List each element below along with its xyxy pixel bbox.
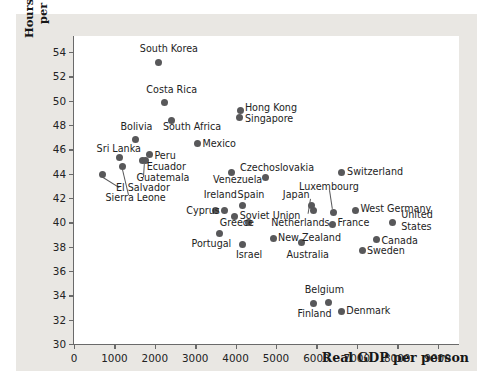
point-label: Hong Kong bbox=[245, 103, 297, 113]
x-tick bbox=[155, 344, 156, 349]
scatter-plot-area: 30323436384042444648505254 0100020003000… bbox=[73, 36, 459, 345]
data-point bbox=[221, 207, 228, 214]
data-point bbox=[155, 59, 162, 66]
data-point bbox=[132, 136, 139, 143]
point-label: Canada bbox=[381, 236, 418, 246]
point-label: Finland bbox=[297, 309, 331, 319]
y-tick bbox=[69, 222, 74, 223]
data-point bbox=[330, 209, 337, 216]
point-label: New Zealand bbox=[278, 233, 341, 243]
y-tick-label: 42 bbox=[53, 192, 66, 204]
x-tick bbox=[276, 344, 277, 349]
data-point bbox=[194, 140, 201, 147]
point-label: Singapore bbox=[245, 114, 293, 124]
y-tick-label: 40 bbox=[53, 216, 66, 228]
point-label: Peru bbox=[154, 151, 175, 161]
y-tick bbox=[69, 198, 74, 199]
point-label: Sri Lanka bbox=[97, 144, 141, 154]
point-label: Bolivia bbox=[120, 122, 152, 132]
point-label: Denmark bbox=[346, 306, 390, 316]
point-label: Australia bbox=[286, 250, 328, 260]
y-tick bbox=[69, 125, 74, 126]
x-tick bbox=[438, 344, 439, 349]
data-point bbox=[236, 114, 243, 121]
point-label: Portugal bbox=[192, 239, 232, 249]
y-tick bbox=[69, 174, 74, 175]
point-label: Ecuador bbox=[147, 162, 186, 172]
x-tick-label: 0 bbox=[71, 352, 78, 364]
point-label: Ireland bbox=[204, 190, 237, 200]
leader-line bbox=[329, 190, 333, 209]
point-label: South Africa bbox=[163, 122, 221, 132]
point-label: Greece bbox=[220, 218, 254, 228]
point-label: Belgium bbox=[305, 285, 344, 295]
x-tick-label: 1000 bbox=[101, 352, 127, 364]
data-point bbox=[262, 174, 269, 181]
y-tick-label: 34 bbox=[53, 289, 66, 301]
y-tick bbox=[69, 76, 74, 77]
y-tick bbox=[69, 295, 74, 296]
x-tick-label: 5000 bbox=[263, 352, 289, 364]
data-point bbox=[270, 235, 277, 242]
x-tick-label: 7000 bbox=[344, 352, 370, 364]
data-point bbox=[359, 247, 366, 254]
y-tick-label: 50 bbox=[53, 95, 66, 107]
y-tick-label: 54 bbox=[53, 46, 66, 58]
y-tick-label: 36 bbox=[53, 265, 66, 277]
point-label: Spain bbox=[238, 190, 265, 200]
x-tick bbox=[74, 344, 75, 349]
point-label: Switzerland bbox=[347, 167, 403, 177]
data-point bbox=[99, 171, 106, 178]
data-point bbox=[389, 219, 396, 226]
data-point bbox=[239, 241, 246, 248]
y-axis-label: Hours of work per week bbox=[22, 0, 50, 38]
y-tick-label: 46 bbox=[53, 143, 66, 155]
point-label: Czechoslovakia bbox=[240, 163, 314, 173]
point-label: Luxembourg bbox=[299, 182, 359, 192]
data-point bbox=[239, 202, 246, 209]
data-point bbox=[338, 169, 345, 176]
data-point bbox=[338, 308, 345, 315]
data-point bbox=[116, 154, 123, 161]
x-tick-label: 6000 bbox=[303, 352, 329, 364]
x-tick bbox=[357, 344, 358, 349]
y-axis-label-line2: per week bbox=[36, 0, 50, 24]
point-label: Mexico bbox=[202, 139, 236, 149]
data-point bbox=[216, 230, 223, 237]
y-tick-label: 48 bbox=[53, 119, 66, 131]
y-tick bbox=[69, 320, 74, 321]
point-label: Israel bbox=[236, 250, 262, 260]
x-tick-label: 9000 bbox=[424, 352, 450, 364]
data-point bbox=[352, 207, 359, 214]
y-tick-label: 32 bbox=[53, 314, 66, 326]
y-tick bbox=[69, 101, 74, 102]
point-label: Sierra Leone bbox=[106, 193, 166, 203]
x-tick bbox=[114, 344, 115, 349]
point-label: El Salvador bbox=[116, 183, 170, 193]
data-point bbox=[161, 99, 168, 106]
point-label: Venezuela bbox=[213, 175, 262, 185]
y-tick-label: 38 bbox=[53, 241, 66, 253]
y-tick bbox=[69, 247, 74, 248]
x-tick bbox=[397, 344, 398, 349]
data-point bbox=[310, 300, 317, 307]
point-label: Sweden bbox=[367, 246, 405, 256]
x-tick-label: 2000 bbox=[142, 352, 168, 364]
point-label: Costa Rica bbox=[146, 85, 197, 95]
point-label: States bbox=[401, 222, 431, 232]
x-tick bbox=[195, 344, 196, 349]
y-tick bbox=[69, 52, 74, 53]
point-label: Cyprus bbox=[186, 206, 220, 216]
point-label: France bbox=[337, 218, 369, 228]
point-label: United bbox=[401, 210, 433, 220]
x-tick bbox=[236, 344, 237, 349]
data-point bbox=[325, 299, 332, 306]
data-point bbox=[119, 163, 126, 170]
x-tick bbox=[316, 344, 317, 349]
y-tick-label: 44 bbox=[53, 168, 66, 180]
data-point bbox=[373, 236, 380, 243]
figure-panel: Hours of work per week Real GDP per pers… bbox=[16, 14, 477, 371]
y-tick bbox=[69, 271, 74, 272]
data-point bbox=[329, 221, 336, 228]
x-tick-label: 3000 bbox=[182, 352, 208, 364]
